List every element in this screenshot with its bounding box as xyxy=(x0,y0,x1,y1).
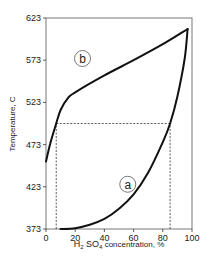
y-tick-label: 623 xyxy=(26,13,41,23)
chart: ba 373423473523573623 020406080100 Tempe… xyxy=(0,0,213,262)
y-tick-label: 523 xyxy=(26,97,41,107)
curves xyxy=(46,29,188,229)
y-tick-label: 423 xyxy=(26,182,41,192)
x-tick-label: 0 xyxy=(43,233,48,243)
x-tick-label: 100 xyxy=(184,233,199,243)
curve-label-b: b xyxy=(79,52,86,66)
y-axis-title: Temperature, C xyxy=(8,96,17,151)
x-axis-title: H2 SO4 concentration, % xyxy=(74,239,165,250)
y-tick-label: 573 xyxy=(26,55,41,65)
y-axis-ticks: 373423473523573623 xyxy=(26,13,46,234)
curve-labels: ba xyxy=(75,51,136,193)
curve-b xyxy=(46,29,188,162)
y-tick-label: 373 xyxy=(26,224,41,234)
y-tick-label: 473 xyxy=(26,140,41,150)
curve-label-a: a xyxy=(124,178,131,192)
